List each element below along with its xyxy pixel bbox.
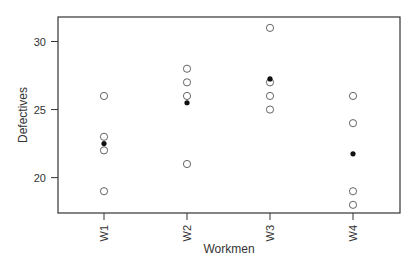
observation-point (349, 188, 356, 195)
observation-point (183, 79, 190, 86)
plot-frame (58, 17, 400, 213)
observation-point (349, 120, 356, 127)
observation-point (100, 92, 107, 99)
y-tick-label: 30 (34, 36, 46, 48)
mean-point (184, 100, 189, 105)
observation-point (183, 160, 190, 167)
chart: 202530 W1W2W3W4 Defectives Workmen (0, 0, 419, 271)
observation-point (266, 92, 273, 99)
observation-point (266, 24, 273, 31)
x-tick-label: W3 (264, 225, 276, 242)
y-tick-label: 25 (34, 104, 46, 116)
observation-point (349, 201, 356, 208)
observation-point (266, 106, 273, 113)
observation-point (349, 92, 356, 99)
x-tick-label: W1 (98, 225, 110, 242)
mean-point (267, 76, 272, 81)
x-axis-label: Workmen (203, 242, 254, 256)
observation-point (183, 92, 190, 99)
y-axis-label: Defectives (16, 87, 30, 143)
observation-point (183, 65, 190, 72)
mean-point (101, 141, 106, 146)
mean-point (350, 151, 355, 156)
y-tick-label: 20 (34, 172, 46, 184)
observation-point (100, 188, 107, 195)
x-axis: W1W2W3W4 (98, 213, 359, 242)
observation-point (100, 133, 107, 140)
y-axis: 202530 (34, 36, 58, 184)
x-tick-label: W2 (181, 225, 193, 242)
data-points (100, 24, 356, 208)
x-tick-label: W4 (347, 225, 359, 242)
observation-point (100, 147, 107, 154)
